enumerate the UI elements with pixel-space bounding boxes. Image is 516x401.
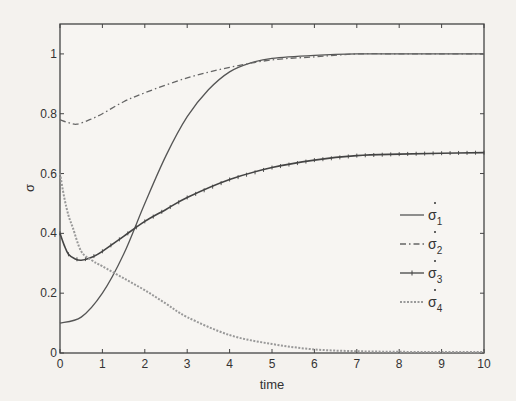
y-tick-label: 0.8	[40, 107, 57, 121]
x-tick-label: 6	[311, 357, 318, 371]
y-tick-label: 0.6	[40, 167, 57, 181]
y-tick-label: 0.2	[40, 286, 57, 300]
x-tick-label: 1	[99, 357, 106, 371]
plot-area	[60, 24, 484, 353]
y-tick-label: 0	[50, 346, 57, 360]
x-tick-label: 2	[141, 357, 148, 371]
x-tick-label: 10	[477, 357, 491, 371]
y-tick-label: 1	[50, 47, 57, 61]
plot-frame	[60, 24, 484, 353]
y-axis-label: σ	[22, 184, 37, 192]
x-tick-label: 3	[184, 357, 191, 371]
x-tick-label: 5	[269, 357, 276, 371]
y-tick-label: 0.4	[40, 226, 57, 240]
x-tick-label: 0	[57, 357, 64, 371]
x-tick-label: 8	[396, 357, 403, 371]
x-tick-label: 4	[226, 357, 233, 371]
x-axis-label: time	[260, 377, 285, 392]
x-tick-label: 7	[353, 357, 360, 371]
x-tick-label: 9	[438, 357, 445, 371]
chart: 01234567891000.20.40.60.81 σ1σ2σ3σ4 time…	[0, 0, 516, 401]
